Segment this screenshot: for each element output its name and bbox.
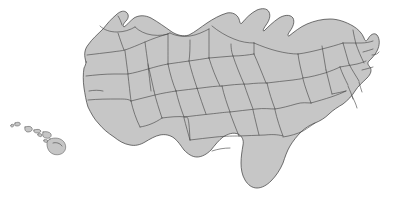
hawaii-island-niihau (11, 124, 14, 127)
map-figure: Distorted United States Cartogram Anamor… (0, 0, 400, 210)
hawaii-island-maui (43, 132, 52, 139)
hawaii-island-kauai (15, 122, 21, 126)
us-cartogram-svg (0, 0, 400, 210)
hawaii-island-molokai (34, 129, 41, 133)
hawaii-island-oahu (25, 126, 33, 132)
